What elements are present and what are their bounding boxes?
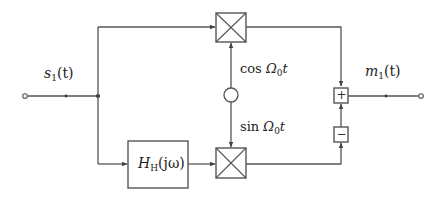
hilbert-block-label: HH(jω) [138,156,185,173]
input-signal-label: s1(t) [44,66,73,83]
output-arrow-dot [385,95,388,98]
input-arrow-dot [65,95,68,98]
output-signal-label: m1(t) [365,64,401,81]
output-terminal [419,94,424,99]
sin-carrier-label: sin Ω0t [240,120,285,136]
bottom-multiplier [216,148,246,178]
input-terminal [23,94,28,99]
oscillator-circle [224,88,238,102]
top-multiplier [216,13,246,42]
plus-sign: + [334,89,349,101]
cos-carrier-label: cos Ω0t [240,62,288,78]
block-diagram [0,0,442,202]
minus-sign: − [334,128,349,140]
bottom-product-wire [246,143,341,164]
